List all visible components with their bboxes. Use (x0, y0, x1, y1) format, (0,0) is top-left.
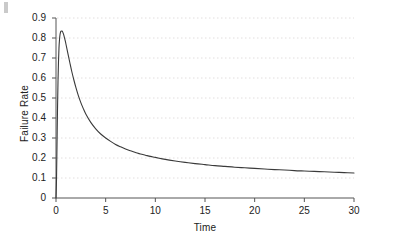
x-axis-tick-marks (56, 198, 354, 202)
y-axis-tick-marks (52, 18, 56, 198)
plot-canvas (0, 0, 404, 244)
chart-figure: Failure Rate Time 00.10.20.30.40.50.60.7… (0, 0, 404, 244)
series-line-failure-rate (56, 31, 354, 198)
gridlines (57, 18, 354, 178)
